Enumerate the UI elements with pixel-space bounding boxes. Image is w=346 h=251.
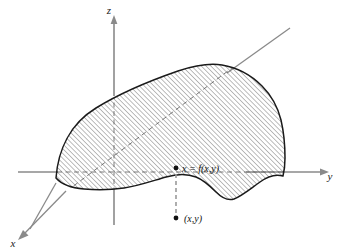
domain-point-label: (x,y) [184, 213, 203, 225]
domain-point-marker [174, 216, 179, 221]
x-axis-label: x [10, 237, 16, 249]
surface-hatching [40, 50, 310, 220]
z-axis-arrowhead [111, 15, 118, 24]
x-axis-back-ray [227, 28, 290, 73]
surface-point-marker [174, 166, 179, 171]
figure-root: z y x x = f(x,y) (x,y) [0, 0, 346, 251]
y-axis-label: y [327, 170, 333, 182]
surface-figure: z y x x = f(x,y) (x,y) [0, 0, 346, 251]
hatched-surface [40, 50, 310, 220]
surface-point-label: x = f(x,y) [181, 163, 220, 175]
z-axis-label: z [106, 4, 112, 16]
